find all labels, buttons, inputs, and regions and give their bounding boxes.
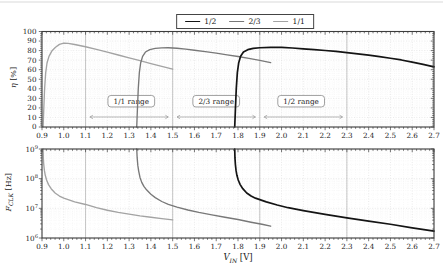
x-tick-label: 2.4 [363, 131, 375, 140]
x-tick-label: 2.1 [298, 242, 309, 251]
x-tick-label: 1.0 [58, 131, 70, 140]
y-tick-label: 10 [27, 113, 37, 122]
y-tick-label: 40 [27, 84, 37, 93]
top-divider [0, 1, 443, 3]
legend-line-sample [229, 21, 244, 22]
series-1-1 [43, 149, 173, 220]
x-tick-label: 1.7 [211, 131, 223, 140]
x-tick-label: 2.6 [407, 131, 419, 140]
y-tick-label: 80 [27, 46, 37, 55]
x-tick-label: 2.4 [363, 242, 375, 251]
vin-subscript: IN [230, 257, 238, 264]
legend-entry: 1/1 [274, 17, 305, 26]
y-tick-label: 30 [27, 94, 37, 103]
series-1-1 [43, 43, 173, 127]
x-tick-label: 1.7 [211, 242, 223, 251]
x-tick-label: 2.5 [385, 131, 397, 140]
y-tick-label: 70 [27, 56, 37, 65]
y-tick-label: 90 [27, 36, 37, 45]
series-2-3 [137, 48, 271, 127]
x-tick-label: 1.5 [167, 242, 179, 251]
y-tick-label: 50 [27, 75, 37, 84]
x-tick-label: 2.6 [407, 242, 419, 251]
range-annotation: 1/1 range [108, 95, 155, 107]
x-tick-label: 2.3 [341, 242, 353, 251]
y-tick-label: 0 [32, 122, 37, 131]
legend-entry-label: 1/1 [293, 17, 305, 26]
x-tick-label: 1.2 [102, 131, 113, 140]
legend-entry-label: 1/2 [204, 17, 216, 26]
x-tick-label: 1.9 [254, 242, 266, 251]
x-tick-label: 1.8 [232, 242, 244, 251]
x-tick-label: 1.6 [189, 131, 201, 140]
range-annotation: 1/2 range [278, 95, 325, 107]
x-tick-label: 0.9 [36, 242, 48, 251]
series-1-2 [235, 149, 434, 231]
y-tick-label: 109 [26, 145, 38, 154]
x-tick-label: 0.9 [36, 131, 48, 140]
x-tick-label: 1.2 [102, 242, 113, 251]
x-tick-label: 1.3 [123, 242, 135, 251]
y-tick-label: 108 [26, 173, 38, 183]
x-tick-label: 1.5 [167, 131, 179, 140]
x-tick-label: 2.0 [276, 131, 288, 140]
legend-entry: 2/3 [229, 17, 260, 26]
y-tick-label: 100 [23, 27, 37, 36]
x-tick-label: 1.3 [123, 131, 135, 140]
series-1-2 [235, 47, 434, 127]
range-annotation-label: 1/1 range [113, 97, 149, 106]
x-tick-label: 2.2 [319, 242, 330, 251]
x-tick-label: 1.1 [80, 242, 91, 251]
x-axis-title: VIN [V] [42, 252, 434, 264]
x-tick-label: 1.4 [145, 131, 157, 140]
range-annotation-label: 2/3 range [198, 97, 234, 106]
x-tick-label: 2.2 [319, 131, 330, 140]
x-tick-label: 2.7 [428, 131, 440, 140]
y-tick-label: 107 [26, 203, 38, 213]
range-annotation: 2/3 range [193, 95, 240, 107]
efficiency-plot: 1/1 range2/3 range1/2 range0.91.01.11.21… [0, 26, 443, 142]
legend-line-sample [185, 21, 200, 22]
legend-line-sample [274, 21, 289, 22]
x-tick-label: 1.4 [145, 242, 157, 251]
legend-entry-label: 2/3 [248, 17, 260, 26]
x-tick-label: 1.9 [254, 131, 266, 140]
x-tick-label: 2.3 [341, 131, 353, 140]
legend-entry: 1/2 [185, 17, 216, 26]
x-tick-label: 1.8 [232, 131, 244, 140]
x-tick-label: 1.1 [80, 131, 91, 140]
x-tick-label: 2.7 [428, 242, 440, 251]
vin-unit: [V] [240, 252, 253, 262]
y-tick-label: 20 [27, 103, 37, 112]
x-tick-label: 2.0 [276, 242, 288, 251]
x-tick-label: 1.6 [189, 242, 201, 251]
y-tick-label: 60 [27, 65, 37, 74]
figure: 1/22/31/1 η [%] FCLK [Hz] 1/1 range2/3 r… [0, 0, 443, 280]
x-tick-label: 2.5 [385, 242, 397, 251]
range-annotation-label: 1/2 range [283, 97, 319, 106]
x-tick-label: 2.1 [298, 131, 309, 140]
x-tick-label: 1.0 [58, 242, 70, 251]
